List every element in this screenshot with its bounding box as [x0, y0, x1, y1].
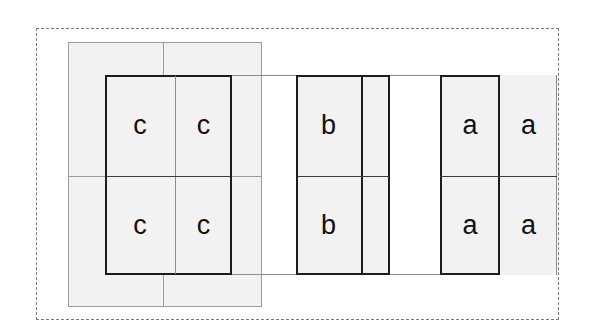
cell-label-a-bottom-right: a [500, 176, 557, 275]
cell-label-b-top: b [296, 75, 361, 176]
cell-label-a-bottom-left: a [440, 176, 500, 275]
tiling-diagram: c c c c b b a a a a [0, 0, 597, 335]
cell-label-c-top-left: c [105, 75, 175, 176]
cell-label-a-top-left: a [440, 75, 500, 176]
cell-label-b-bottom: b [296, 176, 361, 275]
group-b-column-divider [361, 75, 363, 275]
cell-label-c-bottom-right: c [175, 176, 232, 275]
cell-label-c-top-right: c [175, 75, 232, 176]
cell-label-c-bottom-left: c [105, 176, 175, 275]
cell-label-a-top-right: a [500, 75, 557, 176]
